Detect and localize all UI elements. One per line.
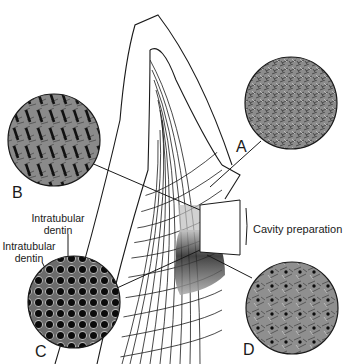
label-c: C	[35, 343, 47, 361]
cavity-preparation	[200, 200, 247, 255]
label-d: D	[243, 341, 255, 359]
cavity-preparation-label: Cavity preparation	[253, 223, 342, 235]
inset-d	[246, 262, 338, 354]
intratubular-dentin-label-upper: Intratubular dentin	[28, 212, 88, 236]
label-a: A	[236, 138, 247, 156]
inset-b	[8, 94, 100, 186]
intratubular-dentin-label-lower: Intratubular dentin	[0, 240, 58, 264]
inset-c	[28, 256, 120, 348]
label-b: B	[12, 184, 23, 202]
tooth-diagram	[0, 0, 343, 364]
inset-a	[245, 57, 337, 149]
